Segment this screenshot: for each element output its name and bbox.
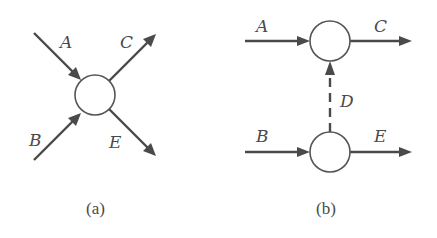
label-a-B: B — [28, 130, 42, 150]
edge-b-D — [325, 61, 335, 132]
label-a-E: E — [108, 132, 122, 152]
panel-b: A C D B E (b) — [245, 16, 412, 218]
label-b-C: C — [374, 16, 387, 36]
arrowhead-icon — [325, 61, 335, 75]
node-top — [310, 21, 350, 61]
edge-b-A — [245, 36, 310, 46]
node-a — [75, 75, 115, 115]
label-b-B: B — [255, 126, 269, 146]
panel-a: A C B E (a) — [28, 32, 156, 218]
label-b-E: E — [373, 126, 387, 146]
label-b-A: A — [254, 16, 268, 36]
arrowhead-icon — [399, 147, 412, 157]
flow-diagram: A C B E (a) — [0, 0, 437, 238]
node-bottom — [310, 132, 350, 172]
edge-a-in — [34, 33, 81, 80]
arrowhead-icon — [297, 147, 310, 157]
arrowhead-icon — [297, 36, 310, 46]
label-a-C: C — [120, 32, 133, 52]
label-b-D: D — [339, 91, 354, 111]
edge-b-C — [350, 36, 412, 46]
label-a-A: A — [58, 32, 72, 52]
edge-b-B — [245, 147, 310, 157]
caption-b: (b) — [316, 199, 336, 218]
arrowhead-icon — [399, 36, 412, 46]
caption-a: (a) — [86, 199, 105, 218]
edge-b-E — [350, 147, 412, 157]
